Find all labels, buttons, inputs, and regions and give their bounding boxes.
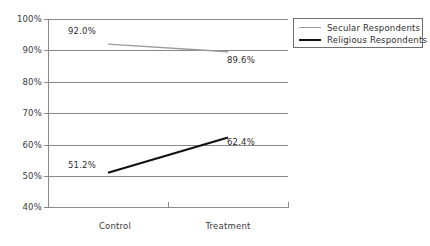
legend-label-religious: Religious Respondents [327, 35, 427, 45]
data-label-religious-control: 51.2% [68, 160, 96, 170]
y-axis-label-40: 40% [2, 203, 42, 212]
data-label-religious-treatment: 62.4% [227, 137, 255, 147]
x-axis-label-control: Control [75, 221, 155, 231]
y-axis-label-50: 50% [2, 172, 42, 181]
x-axis-label-treatment: Treatment [188, 221, 268, 231]
data-label-secular-control: 92.0% [68, 26, 96, 36]
series-line-religious [108, 137, 228, 172]
line-chart: 100% 90% 80% 70% 60% 50% 40% Control Tre… [0, 0, 430, 246]
series-line-secular [108, 44, 228, 52]
x-tick-end [288, 202, 289, 208]
legend-label-secular: Secular Respondents [327, 23, 420, 33]
y-axis-label-70: 70% [2, 109, 42, 118]
series-lines [48, 19, 288, 208]
y-axis-label-60: 60% [2, 141, 42, 150]
chart-legend: Secular Respondents Religious Respondent… [293, 18, 423, 48]
data-label-secular-treatment: 89.6% [227, 55, 255, 65]
legend-item-religious: Religious Respondents [299, 33, 427, 46]
y-axis-label-100: 100% [2, 15, 42, 24]
legend-line-icon-religious [299, 39, 321, 41]
legend-line-icon-secular [299, 27, 321, 28]
y-axis-label-80: 80% [2, 78, 42, 87]
y-axis-label-90: 90% [2, 46, 42, 55]
